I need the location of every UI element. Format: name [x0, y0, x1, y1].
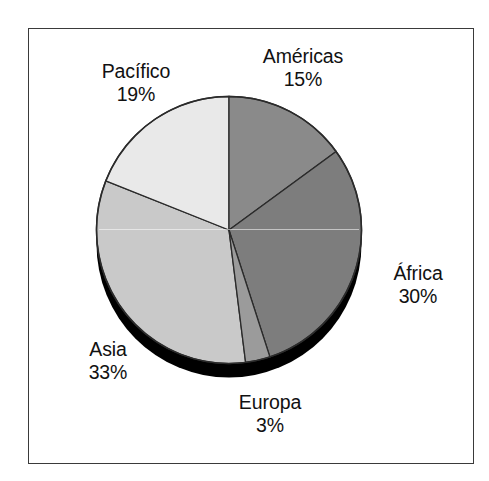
- pie-label-americas: Américas 15%: [238, 45, 368, 90]
- pie-label-pacifico-name: Pacífico: [72, 60, 200, 83]
- pie-label-pacifico-value: 19%: [72, 83, 200, 106]
- pie-label-asia: Asia 33%: [54, 338, 162, 383]
- pie-label-americas-name: Américas: [238, 45, 368, 68]
- pie-label-asia-value: 33%: [54, 361, 162, 384]
- pie-label-africa-name: África: [366, 262, 470, 285]
- pie-label-pacifico: Pacífico 19%: [72, 60, 200, 105]
- pie-label-americas-value: 15%: [238, 68, 368, 91]
- pie-chart-figure: Américas 15% Pacífico 19% África 30% Asi…: [0, 0, 489, 481]
- pie-label-europa: Europa 3%: [208, 391, 332, 436]
- pie-label-europa-name: Europa: [208, 391, 332, 414]
- pie-label-africa-value: 30%: [366, 285, 470, 308]
- pie-label-europa-value: 3%: [208, 414, 332, 437]
- pie-label-africa: África 30%: [366, 262, 470, 307]
- pie-label-asia-name: Asia: [54, 338, 162, 361]
